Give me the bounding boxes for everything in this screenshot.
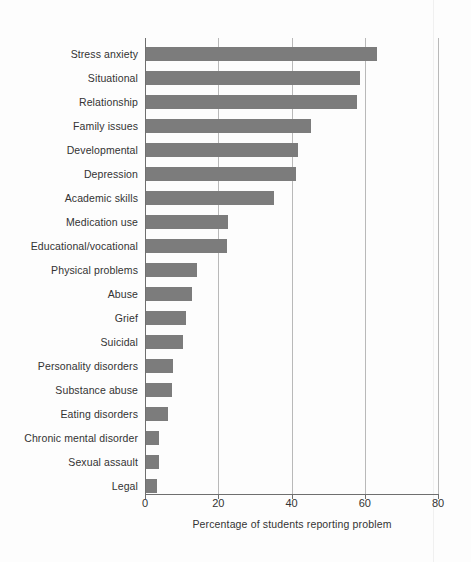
bar <box>146 47 377 61</box>
bar <box>146 119 311 133</box>
bar <box>146 239 227 253</box>
category-label: Family issues <box>0 119 138 133</box>
category-label: Developmental <box>0 143 138 157</box>
bar <box>146 263 197 277</box>
category-label: Depression <box>0 167 138 181</box>
bar <box>146 407 168 421</box>
x-tick-label-20: 20 <box>198 497 238 509</box>
category-label: Academic skills <box>0 191 138 205</box>
x-tick-label-40: 40 <box>272 497 312 509</box>
gridline-80 <box>438 38 439 494</box>
bar-chart-plot-area: Stress anxietySituationalRelationshipFam… <box>0 0 471 562</box>
bar <box>146 167 296 181</box>
bar <box>146 191 274 205</box>
category-label: Stress anxiety <box>0 47 138 61</box>
bar <box>146 71 360 85</box>
bar <box>146 383 172 397</box>
category-label: Personality disorders <box>0 359 138 373</box>
bar <box>146 479 157 493</box>
bar <box>146 95 357 109</box>
category-label: Situational <box>0 71 138 85</box>
gridline-60 <box>365 38 366 494</box>
x-tick-label-0: 0 <box>125 497 165 509</box>
x-tick-label-60: 60 <box>345 497 385 509</box>
category-label: Sexual assault <box>0 455 138 469</box>
category-label: Educational/vocational <box>0 239 138 253</box>
category-label: Suicidal <box>0 335 138 349</box>
chart-page: Stress anxietySituationalRelationshipFam… <box>0 0 471 562</box>
category-label: Physical problems <box>0 263 138 277</box>
category-label: Relationship <box>0 95 138 109</box>
x-axis-title: Percentage of students reporting problem <box>145 518 439 530</box>
category-label: Eating disorders <box>0 407 138 421</box>
bar <box>146 335 183 349</box>
category-label: Abuse <box>0 287 138 301</box>
bar <box>146 455 159 469</box>
bar <box>146 311 186 325</box>
bar <box>146 359 173 373</box>
category-label: Substance abuse <box>0 383 138 397</box>
category-label: Chronic mental disorder <box>0 431 138 445</box>
bar <box>146 215 228 229</box>
bar <box>146 431 159 445</box>
bar <box>146 143 298 157</box>
x-tick-label-80: 80 <box>418 497 458 509</box>
category-label: Legal <box>0 479 138 493</box>
category-label: Medication use <box>0 215 138 229</box>
bar <box>146 287 192 301</box>
scan-edge-artifact <box>433 0 434 562</box>
category-label: Grief <box>0 311 138 325</box>
